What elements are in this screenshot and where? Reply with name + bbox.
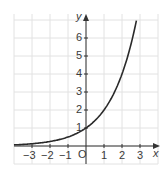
y-tick-label: 2 bbox=[76, 104, 82, 115]
x-tick-label: −2 bbox=[41, 150, 54, 161]
y-tick-label: 6 bbox=[76, 32, 82, 43]
x-tick-label: 1 bbox=[101, 150, 107, 161]
x-tick-label: −1 bbox=[59, 150, 72, 161]
x-axis-label: x bbox=[153, 148, 159, 159]
x-tick-label: 2 bbox=[119, 150, 125, 161]
y-axis-label: y bbox=[76, 11, 82, 22]
y-tick-label: 1 bbox=[76, 122, 82, 133]
x-tick-label: −3 bbox=[23, 150, 36, 161]
y-tick-label: 3 bbox=[76, 86, 82, 97]
y-tick-label: 4 bbox=[76, 68, 82, 79]
y-tick-label: 5 bbox=[76, 50, 82, 61]
origin-label: O bbox=[78, 149, 87, 160]
x-tick-label: 3 bbox=[137, 150, 143, 161]
axes bbox=[14, 14, 160, 164]
